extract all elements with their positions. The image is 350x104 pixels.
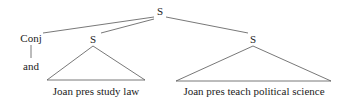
yield-right: Joan pres teach political science [183,86,324,97]
yield-left: Joan pres study law [53,86,139,97]
edge-root-right-s [166,17,248,33]
triangle-right-s [176,46,331,81]
node-left-s: S [90,34,96,45]
node-right-s: S [250,34,256,45]
syntax-tree-diagram: S Conj and S S Joan pres study law Joan … [0,0,350,104]
node-conj: Conj [20,33,41,44]
node-root-s: S [157,6,163,17]
edge-root-conj [43,17,154,33]
node-and: and [23,61,39,72]
triangle-left-s [47,46,145,80]
